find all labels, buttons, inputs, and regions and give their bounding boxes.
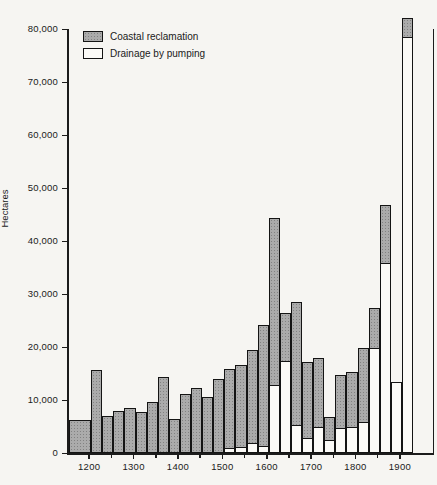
- bar-drainage-1625: [280, 360, 291, 453]
- bar-reclamation-1700: [313, 358, 324, 428]
- bar-drainage-1725: [324, 440, 335, 453]
- bar-reclamation-1800: [358, 348, 369, 423]
- x-tick-label: 1700: [294, 461, 328, 472]
- bar-reclamation-1725: [324, 417, 335, 441]
- y-tick-label: 30,000: [12, 289, 58, 299]
- legend-label: Drainage by pumping: [110, 48, 205, 59]
- drainage-by-pumping-swatch-icon: [83, 48, 103, 59]
- bar-drainage-1550: [247, 442, 258, 453]
- bar-reclamation-1775: [346, 372, 357, 428]
- bar-drainage-1900: [402, 37, 413, 453]
- bar-reclamation-1200: [91, 370, 102, 453]
- x-tick-label: 1300: [117, 461, 151, 472]
- bar-drainage-1700: [313, 427, 324, 454]
- legend-label: Coastal reclamation: [110, 31, 198, 42]
- coastal-reclamation-swatch-icon: [83, 31, 103, 42]
- y-tick-label: 0: [12, 448, 58, 458]
- legend: Coastal reclamation Drainage by pumping: [83, 29, 205, 63]
- x-tick-label: 1200: [72, 461, 106, 472]
- x-tick-label: 1900: [383, 461, 417, 472]
- bar-reclamation-1425: [191, 388, 202, 453]
- bar-reclamation-1525: [235, 365, 246, 448]
- bar-reclamation-1750: [335, 375, 346, 430]
- bar-reclamation-1850: [380, 205, 391, 264]
- bar-reclamation-1150: [69, 420, 91, 453]
- bar-reclamation-1625: [280, 313, 291, 362]
- bar-reclamation-1575: [258, 325, 269, 447]
- bar-reclamation-1825: [369, 308, 380, 349]
- bar-reclamation-1900: [402, 18, 413, 38]
- bar-drainage-1850: [380, 262, 391, 453]
- bar-drainage-1825: [369, 347, 380, 453]
- bar-reclamation-1375: [169, 419, 180, 453]
- bar-drainage-1800: [358, 421, 369, 453]
- bar-reclamation-1350: [158, 377, 169, 453]
- bar-reclamation-1450: [202, 397, 213, 453]
- y-tick-label: 60,000: [12, 130, 58, 140]
- bar-reclamation-1400: [180, 394, 191, 453]
- bar-drainage-1600: [269, 384, 280, 453]
- y-tick-label: 40,000: [12, 236, 58, 246]
- y-tick-label: 50,000: [12, 183, 58, 193]
- legend-item-coastal-reclamation: Coastal reclamation: [83, 29, 205, 44]
- y-tick-label: 70,000: [12, 77, 58, 87]
- bar-reclamation-1300: [136, 412, 147, 453]
- bar-reclamation-1325: [147, 402, 158, 453]
- y-tick-label: 80,000: [12, 24, 58, 34]
- bar-drainage-1750: [335, 428, 346, 453]
- bar-reclamation-1275: [124, 408, 135, 453]
- bar-drainage-1775: [346, 427, 357, 454]
- plot-area: [67, 29, 434, 455]
- bar-drainage-1650: [291, 425, 302, 453]
- bar-reclamation-1500: [224, 369, 235, 449]
- bar-reclamation-1550: [247, 350, 258, 444]
- bar-reclamation-1475: [213, 379, 224, 453]
- bar-drainage-1875: [391, 382, 402, 453]
- x-tick-label: 1600: [250, 461, 284, 472]
- bar-reclamation-1650: [291, 302, 302, 426]
- x-tick-label: 1400: [161, 461, 195, 472]
- y-axis-title: Hectares: [0, 174, 10, 244]
- x-tick-label: 1800: [339, 461, 373, 472]
- bar-reclamation-1225: [102, 416, 113, 453]
- bar-reclamation-1250: [113, 411, 124, 453]
- bar-reclamation-1600: [269, 218, 280, 385]
- reclamation-history-chart: Hectares 010,00020,00030,00040,00050,000…: [0, 0, 437, 485]
- bar-drainage-1675: [302, 437, 313, 453]
- bar-reclamation-1675: [302, 362, 313, 439]
- x-tick-label: 1500: [205, 461, 239, 472]
- legend-item-drainage-by-pumping: Drainage by pumping: [83, 46, 205, 61]
- y-tick-label: 20,000: [12, 342, 58, 352]
- y-tick-label: 10,000: [12, 395, 58, 405]
